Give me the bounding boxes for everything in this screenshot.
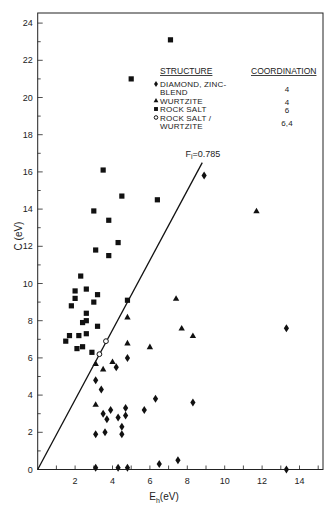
legend-header-structure: STRUCTURE [160,66,213,76]
diamond-marker [93,376,98,384]
y-tick-label: 22 [23,55,33,65]
diamond-marker [202,172,207,180]
x-tick-label: 8 [185,476,190,486]
diamond-marker [114,363,119,371]
square-marker [78,273,83,278]
triangle-marker [154,98,159,102]
diamond-marker [125,354,130,362]
diamond-marker [125,464,130,472]
square-marker [84,311,89,316]
y-tick-label: 14 [23,204,33,214]
square-marker [69,303,74,308]
legend-header-coordination: COORDINATION [251,66,316,76]
open-circle-marker [104,339,109,344]
y-tick-label: 8 [28,316,33,326]
square-marker [84,286,89,291]
triangle-marker [109,358,115,364]
scatter-chart: 024681012141618202224 2468101214 Fi=0.78… [0,0,333,516]
x-tick-label: 6 [147,476,152,486]
square-marker [76,333,81,338]
triangle-marker [92,360,98,366]
diamond-marker [93,464,98,472]
diamond-marker [284,324,289,332]
square-marker [91,300,96,305]
diamond-marker [123,412,128,420]
square-marker [91,208,96,213]
square-marker [129,76,134,81]
square-marker [67,333,72,338]
legend: STRUCTURECOORDINATIONDIAMOND, ZINC-BLEND… [154,66,317,131]
diamond-marker [153,395,158,403]
x-tick-label: 14 [294,476,304,486]
open-circle-marker [97,352,102,357]
square-marker [154,107,158,111]
square-marker [73,296,78,301]
y-tick-label: 12 [23,241,33,251]
diamond-marker [154,81,158,87]
square-marker [101,167,106,172]
legend-label: WURTZITE [160,122,203,131]
square-marker [63,339,68,344]
y-tick-label: 2 [28,427,33,437]
x-axis-label: Eh(eV) [149,491,178,504]
diamond-marker [119,423,124,431]
square-marker [125,298,130,303]
square-marker [155,197,160,202]
square-marker [89,350,94,355]
x-tick-label: 2 [73,476,78,486]
square-marker [116,240,121,245]
legend-coordination: 6 [285,106,290,115]
diamond-marker [99,386,104,394]
triangle-marker [190,332,196,338]
open-circle-marker [154,116,158,120]
y-tick-label: 16 [23,167,33,177]
triangle-marker [178,325,184,331]
y-tick-label: 20 [23,93,33,103]
square-marker [84,318,89,323]
diamond-marker [116,413,121,421]
square-marker [74,346,79,351]
diamond-marker [284,466,289,474]
y-tick-label: 18 [23,130,33,140]
y-axis-ticks: 024681012141618202224 [23,18,43,474]
square-marker [106,218,111,223]
square-marker [73,288,78,293]
square-marker [168,37,173,42]
square-marker [93,247,98,252]
y-tick-label: 6 [28,353,33,363]
triangle-marker [100,366,106,372]
square-marker [84,331,89,336]
triangle-marker [147,344,153,350]
y-tick-label: 10 [23,279,33,289]
diamond-marker [119,430,124,438]
diamond-marker [93,430,98,438]
diamond-marker [123,404,128,412]
triangle-marker [253,208,259,214]
y-tick-label: 24 [23,18,33,28]
x-tick-label: 12 [257,476,267,486]
triangle-marker [124,340,130,346]
ionicity-reference-line [38,163,203,470]
y-axis-label: C (eV) [13,222,24,251]
diamond-marker [157,460,162,468]
square-marker [95,292,100,297]
diamond-marker [116,464,121,472]
diamond-marker [142,406,147,414]
legend-coordination: 6,4 [281,119,293,128]
fi-annotation: Fi=0.785 [185,149,220,160]
x-tick-label: 10 [220,476,230,486]
square-marker [119,193,124,198]
legend-coordination: 4 [285,85,290,94]
x-tick-label: 4 [110,476,115,486]
diamond-marker [108,406,113,414]
square-marker [106,253,111,258]
diamond-marker [175,456,180,464]
diamond-marker [102,428,107,436]
triangle-marker [92,401,98,407]
diamond-marker [104,415,109,423]
y-tick-label: 0 [28,465,33,475]
triangle-marker [124,314,130,320]
diamond-marker [101,410,106,418]
square-marker [80,344,85,349]
square-marker [95,324,100,329]
